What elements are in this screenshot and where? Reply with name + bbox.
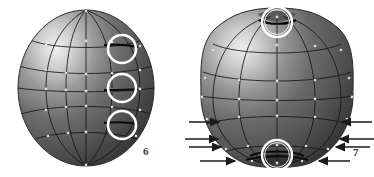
panel-right [185, 7, 374, 170]
deformed-sphere [201, 8, 354, 168]
undeformed-sphere [18, 10, 154, 167]
figure-caption-6: 6 [143, 146, 149, 157]
panel-left [18, 10, 154, 167]
figure-stage [0, 0, 374, 177]
figure-caption-7: 7 [353, 147, 359, 158]
figure-canvas [0, 0, 374, 177]
